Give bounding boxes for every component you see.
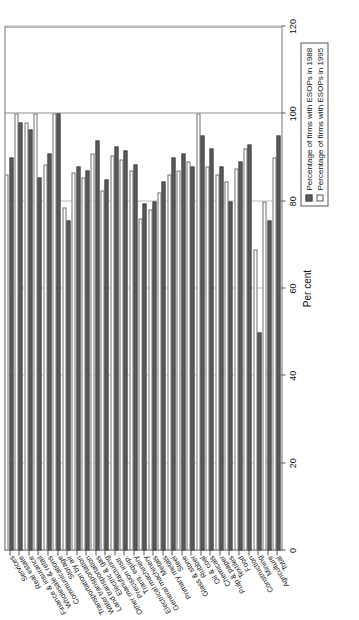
- category-tick: [181, 550, 182, 555]
- bar-row: [271, 26, 281, 550]
- bar-1995: [167, 174, 171, 550]
- bar-row: [100, 26, 110, 550]
- bar-1988: [18, 122, 22, 550]
- bar-1988: [37, 177, 41, 550]
- category-tick: [257, 550, 258, 555]
- value-axis-tick-label: 60: [287, 283, 297, 293]
- category-tick: [190, 550, 191, 555]
- category-tick: [143, 550, 144, 555]
- category-tick: [57, 550, 58, 555]
- legend-label-1995: Percentage of firms with ESOPs in 1995: [315, 47, 324, 190]
- category-tick: [104, 550, 105, 555]
- bar-row: [128, 26, 138, 550]
- bar-1995: [176, 170, 180, 550]
- bar-1995: [215, 174, 219, 550]
- bar-1995: [205, 166, 209, 550]
- value-axis-tick: [281, 200, 285, 201]
- bar-1995: [62, 207, 66, 550]
- bar-1995: [33, 113, 37, 550]
- bar-row: [71, 26, 81, 550]
- bar-row: [138, 26, 148, 550]
- legend-swatch-1988: [305, 194, 312, 201]
- bar-1995: [138, 218, 142, 550]
- bar-row: [166, 26, 176, 550]
- bar-1988: [104, 179, 108, 550]
- bar-row: [90, 26, 100, 550]
- value-axis-tick-label: 40: [287, 370, 297, 380]
- bar-row: [52, 26, 62, 550]
- bar-row: [195, 26, 205, 550]
- value-axis-tick: [281, 374, 285, 375]
- bar-1988: [209, 148, 213, 550]
- category-tick: [248, 550, 249, 555]
- bar-row: [157, 26, 167, 550]
- bar-1995: [148, 209, 152, 550]
- value-axis-tick: [281, 462, 285, 463]
- bar-1988: [161, 181, 165, 550]
- category-tick: [76, 550, 77, 555]
- bar-1988: [247, 144, 251, 550]
- legend-item-1988: Percentage of firms with ESOPs in 1988: [303, 47, 314, 201]
- bar-1988: [123, 150, 127, 550]
- category-tick: [238, 550, 239, 555]
- category-tick: [276, 550, 277, 555]
- bar-1988: [152, 201, 156, 550]
- legend-label-1988: Percentage of firms with ESOPs in 1988: [304, 47, 313, 190]
- bar-1988: [114, 146, 118, 550]
- bar-row: [214, 26, 224, 550]
- bar-row: [80, 26, 90, 550]
- category-tick: [85, 550, 86, 555]
- bar-1995: [71, 172, 75, 550]
- bar-1995: [196, 113, 200, 550]
- bar-1995: [243, 148, 247, 550]
- bar-1995: [90, 153, 94, 550]
- bar-row: [23, 26, 33, 550]
- chart-legend: Percentage of firms with ESOPs in 1988 P…: [300, 42, 328, 206]
- bar-1988: [76, 166, 80, 550]
- bar-1995: [157, 192, 161, 550]
- value-axis-tick-label: 80: [287, 196, 297, 206]
- value-axis-tick-label: 0: [287, 547, 297, 552]
- bar-1988: [181, 153, 185, 550]
- bar-1988: [190, 166, 194, 550]
- value-axis-tick: [281, 549, 285, 550]
- bar-1995: [110, 155, 114, 550]
- category-tick: [219, 550, 220, 555]
- bar-1995: [81, 177, 85, 550]
- category-tick: [209, 550, 210, 555]
- value-axis-tick-label: 100: [287, 106, 297, 121]
- bar-1988: [56, 113, 60, 550]
- bar-1988: [47, 153, 51, 550]
- category-tick: [114, 550, 115, 555]
- category-tick: [267, 550, 268, 555]
- value-axis-tick: [281, 112, 285, 113]
- category-tick: [66, 550, 67, 555]
- bar-1995: [24, 122, 28, 550]
- bar-1995: [129, 170, 133, 550]
- bar-row: [119, 26, 129, 550]
- bar-row: [233, 26, 243, 550]
- bar-1988: [85, 170, 89, 550]
- category-tick: [133, 550, 134, 555]
- bar-row: [243, 26, 253, 550]
- value-axis-tick: [281, 25, 285, 26]
- bar-1988: [257, 332, 261, 550]
- category-tick: [28, 550, 29, 555]
- bar-1988: [200, 135, 204, 550]
- category-tick: [123, 550, 124, 555]
- value-axis-tick-label: 20: [287, 458, 297, 468]
- bar-1995: [14, 113, 18, 550]
- bar-1995: [272, 157, 276, 550]
- bar-1995: [253, 249, 257, 550]
- bar-1988: [219, 166, 223, 550]
- bar-row: [252, 26, 262, 550]
- bar-1995: [262, 201, 266, 550]
- bar-1988: [133, 164, 137, 550]
- category-tick: [95, 550, 96, 555]
- bar-1988: [95, 140, 99, 550]
- value-axis-tick: [281, 287, 285, 288]
- category-tick: [152, 550, 153, 555]
- bar-row: [176, 26, 186, 550]
